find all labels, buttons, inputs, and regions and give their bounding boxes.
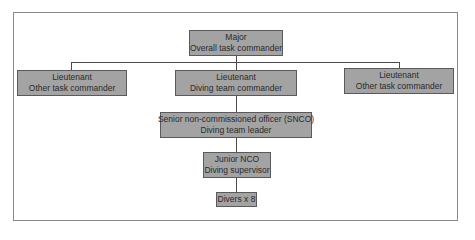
connector-lieutenant-to-snco: [236, 96, 237, 112]
node-lieutenant-center-role: Diving team commander: [190, 83, 282, 94]
node-snco-role: Diving team leader: [201, 125, 272, 136]
node-lieutenant-center-rank: Lieutenant: [216, 72, 256, 83]
node-major-rank: Major: [225, 32, 246, 43]
node-lieutenant-left-rank: Lieutenant: [52, 72, 92, 83]
node-major: Major Overall task commander: [189, 30, 283, 56]
connector-jnco-to-divers: [236, 178, 237, 192]
node-lieutenant-left: Lieutenant Other task commander: [17, 70, 127, 96]
node-junior-nco-role: Diving supervisor: [204, 165, 269, 176]
node-snco-rank: Senior non-commissioned officer (SNCO): [158, 114, 314, 125]
node-lieutenant-left-role: Other task commander: [29, 83, 115, 94]
node-junior-nco: Junior NCO Diving supervisor: [203, 152, 271, 178]
node-lieutenant-center: Lieutenant Diving team commander: [175, 70, 297, 96]
node-lieutenant-right: Lieutenant Other task commander: [344, 68, 454, 94]
node-snco: Senior non-commissioned officer (SNCO) D…: [160, 112, 312, 138]
node-lieutenant-right-role: Other task commander: [356, 81, 442, 92]
connector-to-center-lieutenant: [236, 62, 237, 70]
node-divers: Divers x 8: [216, 192, 257, 207]
node-junior-nco-rank: Junior NCO: [215, 154, 259, 165]
connector-snco-to-jnco: [236, 138, 237, 152]
node-major-role: Overall task commander: [190, 43, 282, 54]
node-divers-label: Divers x 8: [218, 194, 256, 205]
node-lieutenant-right-rank: Lieutenant: [379, 70, 419, 81]
connector-to-left-lieutenant: [71, 62, 72, 70]
